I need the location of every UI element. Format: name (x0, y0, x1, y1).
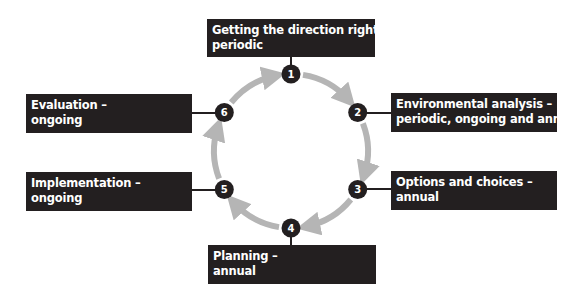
stage-number: 3 (354, 184, 361, 195)
cycle-arrow-5-to-6 (214, 127, 219, 178)
stage-box-options-and-choices: Options and choices – annual (391, 171, 557, 210)
stage-title: Environmental analysis – (396, 97, 552, 112)
stage-frequency: ongoing (31, 113, 187, 128)
stage-box-evaluation: Evaluation – ongoing (26, 94, 192, 133)
cycle-arrow-6-to-1 (231, 76, 275, 103)
cycle-arrow-4-to-5 (234, 203, 279, 228)
stage-frequency: ongoing (31, 191, 187, 206)
stage-number: 2 (354, 107, 361, 118)
stage-node-4: 4 (282, 219, 301, 238)
stage-number: 4 (288, 223, 295, 234)
stage-frequency: periodic (212, 38, 370, 53)
stage-title: Evaluation – (31, 98, 187, 113)
stage-box-getting-direction-right: Getting the direction right – periodic (207, 19, 375, 57)
cycle-arrow-2-to-3 (363, 123, 368, 174)
stage-box-environmental-analysis: Environmental analysis – periodic, ongoi… (391, 93, 557, 132)
stage-title: Getting the direction right – (212, 23, 370, 38)
stage-node-2: 2 (348, 103, 367, 122)
stage-node-3: 3 (348, 180, 367, 199)
stage-frequency: periodic, ongoing and annual (396, 112, 552, 127)
stage-box-implementation: Implementation – ongoing (26, 172, 192, 211)
cycle-arrow-3-to-4 (307, 200, 351, 227)
stage-title: Options and choices – (396, 175, 552, 190)
stage-title: Planning – (213, 249, 371, 264)
stage-frequency: annual (396, 190, 552, 205)
stage-number: 6 (221, 107, 228, 118)
cycle-arrow-1-to-2 (303, 75, 348, 100)
stage-frequency: annual (213, 264, 371, 279)
stage-title: Implementation – (31, 176, 187, 191)
stage-node-1: 1 (282, 65, 301, 84)
stage-number: 5 (221, 184, 228, 195)
stage-box-planning: Planning – annual (208, 245, 376, 284)
stage-node-6: 6 (215, 103, 234, 122)
stage-node-5: 5 (215, 180, 234, 199)
stage-number: 1 (288, 69, 295, 80)
